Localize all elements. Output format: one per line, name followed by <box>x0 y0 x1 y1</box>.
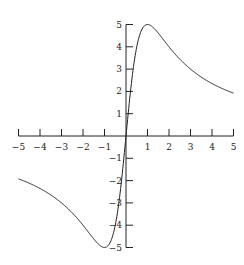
y-tick-label: 2 <box>116 86 122 96</box>
x-tick-label: 1 <box>145 142 151 152</box>
y-tick-label: 4 <box>116 42 122 52</box>
x-tick-label: 5 <box>231 142 237 152</box>
y-tick-label: −3 <box>109 198 123 208</box>
y-tick-label: 5 <box>116 20 122 30</box>
y-tick-label: −5 <box>109 243 123 253</box>
x-tick-label: 4 <box>209 142 215 152</box>
y-tick-label: 3 <box>116 64 122 74</box>
y-tick-label: 1 <box>116 109 122 119</box>
x-tick-label: −1 <box>98 142 111 152</box>
function-plot: −5−4−3−2−112345 −5−4−3−2−112345 <box>0 0 244 265</box>
x-tick-label: −3 <box>55 142 69 152</box>
y-tick-label: −1 <box>109 153 122 163</box>
x-tick-label: −4 <box>33 142 47 152</box>
y-tick-label: −2 <box>109 176 122 186</box>
x-tick-label: 2 <box>166 142 172 152</box>
x-tick-label: 3 <box>188 142 194 152</box>
x-axis-ticks: −5−4−3−2−112345 <box>12 129 237 152</box>
x-tick-label: −5 <box>12 142 26 152</box>
x-tick-label: −2 <box>76 142 89 152</box>
plot-canvas: −5−4−3−2−112345 −5−4−3−2−112345 <box>0 0 244 265</box>
